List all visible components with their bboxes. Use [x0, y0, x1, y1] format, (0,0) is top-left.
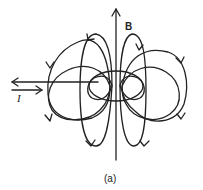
figure-caption: (a)	[104, 173, 116, 184]
field-loops-left	[48, 34, 112, 146]
b-axis-arrow	[112, 9, 120, 160]
b-field-label: B	[125, 21, 132, 32]
field-lines-figure	[0, 0, 203, 190]
current-label: I	[17, 92, 21, 104]
field-loops-right	[120, 34, 187, 146]
